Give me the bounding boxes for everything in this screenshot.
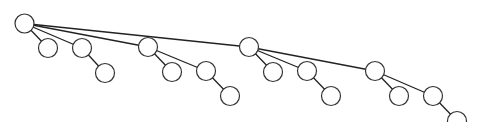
tree-node (390, 87, 409, 106)
tree-node (96, 64, 115, 83)
tree-node (240, 38, 259, 57)
tree-node (264, 63, 283, 82)
tree-node (197, 62, 216, 81)
tree-node (163, 63, 182, 82)
tree-node (322, 87, 341, 106)
tree-node (39, 39, 58, 58)
tree-edge (25, 24, 250, 48)
tree-node (15, 14, 34, 33)
tree-node (424, 87, 443, 106)
tree-node (139, 38, 158, 57)
edge-layer (25, 24, 458, 122)
tree-node (298, 62, 317, 81)
tree-diagram (0, 0, 482, 122)
tree-node (448, 112, 467, 123)
tree-node (221, 87, 240, 106)
tree-node (366, 62, 385, 81)
tree-node (73, 39, 92, 58)
